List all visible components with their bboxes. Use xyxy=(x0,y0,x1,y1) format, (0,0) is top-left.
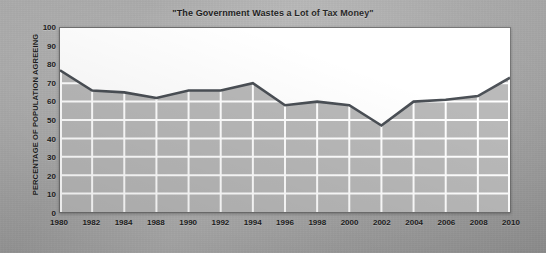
y-axis-tick-label: 20 xyxy=(30,171,56,180)
chart-title: "The Government Wastes a Lot of Tax Mone… xyxy=(0,8,546,18)
x-axis-tick-label: 2006 xyxy=(438,218,456,227)
x-axis-tick-label: 1990 xyxy=(179,218,197,227)
x-axis-tick-label: 1992 xyxy=(212,218,230,227)
x-axis-tick-label: 1980 xyxy=(50,218,68,227)
x-axis-tick-label: 1994 xyxy=(244,218,262,227)
x-axis-tick-labels: 1980198219841988199019921994199619982000… xyxy=(59,218,511,232)
x-axis-tick-label: 2010 xyxy=(502,218,520,227)
y-axis-tick-label: 10 xyxy=(30,190,56,199)
x-axis-tick-label: 1996 xyxy=(276,218,294,227)
y-axis-tick-label: 100 xyxy=(30,23,56,32)
y-axis-tick-label: 70 xyxy=(30,78,56,87)
x-axis-tick-label: 1984 xyxy=(115,218,133,227)
x-axis-tick-label: 1998 xyxy=(308,218,326,227)
y-axis-tick-label: 90 xyxy=(30,41,56,50)
y-axis-tick-label: 30 xyxy=(30,153,56,162)
x-axis-tick-label: 2008 xyxy=(470,218,488,227)
x-axis-tick-label: 2002 xyxy=(373,218,391,227)
y-axis-tick-labels: 1009080706050403020100 xyxy=(30,25,56,213)
chart-page: "The Government Wastes a Lot of Tax Mone… xyxy=(0,0,546,253)
y-axis-tick-label: 40 xyxy=(30,134,56,143)
y-axis-tick-label: 80 xyxy=(30,60,56,69)
y-axis-tick-label: 0 xyxy=(30,209,56,218)
plot-area xyxy=(59,27,511,213)
x-axis-tick-label: 2004 xyxy=(405,218,423,227)
y-axis-tick-label: 50 xyxy=(30,116,56,125)
x-axis-tick-label: 1982 xyxy=(82,218,100,227)
area-chart-svg xyxy=(60,28,510,212)
y-axis-tick-label: 60 xyxy=(30,97,56,106)
x-axis-tick-label: 1988 xyxy=(147,218,165,227)
x-axis-tick-label: 2000 xyxy=(341,218,359,227)
